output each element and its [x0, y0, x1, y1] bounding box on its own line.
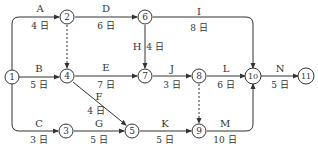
node-4: 4 [60, 69, 74, 83]
duration-M: 10 日 [213, 135, 236, 145]
node-6: 6 [138, 10, 152, 24]
duration-I: 8 日 [190, 23, 208, 33]
node-11-label: 11 [301, 72, 311, 81]
activity-label-K: K [161, 118, 169, 129]
duration-B: 5 日 [30, 80, 48, 90]
node-11: 11 [298, 68, 314, 84]
activity-label-J: J [169, 63, 174, 74]
node-10-label: 10 [248, 72, 258, 81]
duration-D: 6 日 [97, 21, 115, 31]
node-2-label: 2 [64, 12, 70, 22]
duration-F: 4 日 [87, 106, 105, 116]
node-3: 3 [59, 124, 73, 138]
activity-label-N: N [276, 63, 285, 74]
duration-N: 5 日 [271, 80, 289, 90]
duration-K: 5 日 [156, 135, 174, 145]
duration-C: 3 日 [30, 135, 48, 145]
node-9: 9 [192, 124, 206, 138]
node-2: 2 [60, 10, 74, 24]
activity-label-H: H [133, 41, 142, 52]
duration-G: 5 日 [90, 135, 108, 145]
activity-label-G: G [95, 118, 103, 129]
activity-label-I: I [197, 6, 201, 17]
node-5: 5 [125, 124, 139, 138]
duration-H: 4 日 [146, 42, 164, 52]
node-8-label: 8 [196, 71, 202, 81]
activity-label-D: D [102, 3, 110, 14]
node-9-label: 9 [196, 126, 202, 136]
node-7-label: 7 [142, 71, 148, 81]
node-5-label: 5 [129, 126, 135, 136]
activity-label-C: C [35, 118, 43, 129]
duration-A: 4 日 [31, 21, 49, 31]
node-1: 1 [5, 70, 19, 84]
network-diagram: A 4 日 B 5 日 C 3 日 D 6 日 E 7 日 F 4 日 G 5 … [0, 0, 318, 155]
activity-label-L: L [223, 63, 230, 74]
duration-E: 7 日 [97, 80, 115, 90]
duration-L: 6 日 [217, 80, 235, 90]
node-6-label: 6 [142, 12, 148, 22]
duration-J: 3 日 [163, 80, 181, 90]
node-10: 10 [245, 68, 261, 84]
activity-label-A: A [35, 3, 44, 14]
node-3-label: 3 [63, 126, 69, 136]
activity-label-E: E [102, 62, 109, 73]
activity-label-B: B [35, 63, 42, 74]
node-7: 7 [138, 69, 152, 83]
activity-label-M: M [220, 118, 230, 129]
node-8: 8 [192, 69, 206, 83]
activity-label-F: F [96, 91, 103, 102]
node-1-label: 1 [9, 72, 15, 82]
node-4-label: 4 [64, 71, 70, 81]
